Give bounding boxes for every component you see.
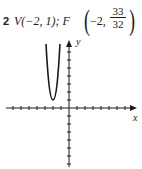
y-axis-arrow-icon [66,40,72,47]
y-axis [66,40,72,167]
parabola-curve [46,44,60,100]
x-axis-label: x [133,112,137,123]
y-axis-label: y [76,36,80,47]
x-axis [6,105,137,111]
parabola-graph [0,0,142,169]
x-axis-arrow-icon [130,105,137,111]
